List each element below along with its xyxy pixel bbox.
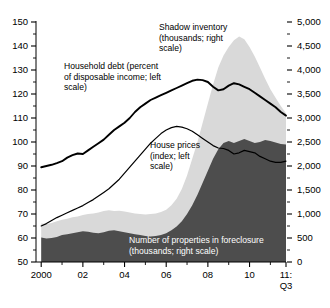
- left-tick-label: 90: [17, 160, 28, 171]
- x-tick-label: 04: [119, 269, 130, 280]
- right-tick-label: 3,000: [297, 112, 321, 123]
- chart-container: 15014013012011010090807060505,0004,5004,…: [0, 0, 330, 308]
- x-tick-label: 02: [78, 269, 89, 280]
- right-tick-label: 5,000: [297, 16, 321, 27]
- annotation-household-debt: Household debt (percent of disposable in…: [64, 61, 189, 93]
- right-tick-label: 4,000: [297, 64, 321, 75]
- left-tick-label: 150: [12, 16, 28, 27]
- right-tick-label: 2,000: [297, 160, 321, 171]
- annotation-foreclosure: Number of properties in foreclosure (tho…: [129, 235, 304, 256]
- right-tick-label: 1,000: [297, 208, 321, 219]
- left-tick-label: 140: [12, 40, 28, 51]
- left-tick-label: 130: [12, 64, 28, 75]
- x-tick-label: 10: [244, 269, 255, 280]
- x-tick-label-second-line: Q3: [280, 280, 293, 291]
- x-tick-label: 06: [161, 269, 172, 280]
- x-tick-label: 08: [203, 269, 214, 280]
- left-tick-label: 50: [17, 256, 28, 267]
- right-tick-label: 4,500: [297, 40, 321, 51]
- right-tick-label: 3,500: [297, 88, 321, 99]
- annotation-shadow-inventory: Shadow inventory (thousands; right scale…: [159, 22, 254, 54]
- left-tick-label: 60: [17, 232, 28, 243]
- left-tick-label: 110: [13, 112, 28, 123]
- left-tick-label: 80: [17, 184, 28, 195]
- right-tick-label: 2,500: [297, 136, 321, 147]
- x-tick-label: 2000: [31, 269, 52, 280]
- right-tick-label: 1,500: [297, 184, 321, 195]
- left-tick-label: 70: [17, 208, 28, 219]
- annotation-house-prices: House prices (index; left scale): [150, 140, 230, 172]
- right-tick-label: 0: [297, 256, 302, 267]
- x-tick-label: 11:: [280, 269, 293, 280]
- left-tick-label: 100: [12, 136, 28, 147]
- left-tick-label: 120: [12, 88, 28, 99]
